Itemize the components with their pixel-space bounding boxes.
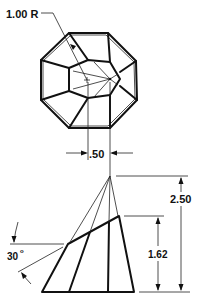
convergence-point: [109, 78, 112, 81]
outer-octagon: [41, 33, 137, 128]
facet-edge: [41, 60, 69, 68]
angle-label: 30: [7, 251, 19, 262]
facet-edge: [41, 91, 69, 100]
apex-projection-lines: [70, 176, 118, 242]
total-height-label: 2.50: [170, 193, 191, 205]
facet-edge: [120, 61, 136, 72]
octagon-inner-outline: [43, 35, 135, 126]
top-view: [41, 13, 137, 128]
offset-label: .50: [89, 148, 104, 160]
front-view: [42, 176, 134, 292]
radius-label: 1.00 R: [6, 8, 38, 20]
frustum-height-label: 1.62: [148, 249, 168, 260]
inner-face: [69, 60, 120, 98]
radius-leader: [41, 13, 87, 80]
frustum-edge: [108, 222, 109, 292]
facet-edge: [69, 98, 88, 128]
frustum-outline: [42, 216, 134, 292]
facet-edge: [108, 33, 110, 62]
technical-drawing: 1.00 R .50 2.50: [0, 0, 206, 304]
angle-degree-symbol: o: [20, 248, 24, 254]
